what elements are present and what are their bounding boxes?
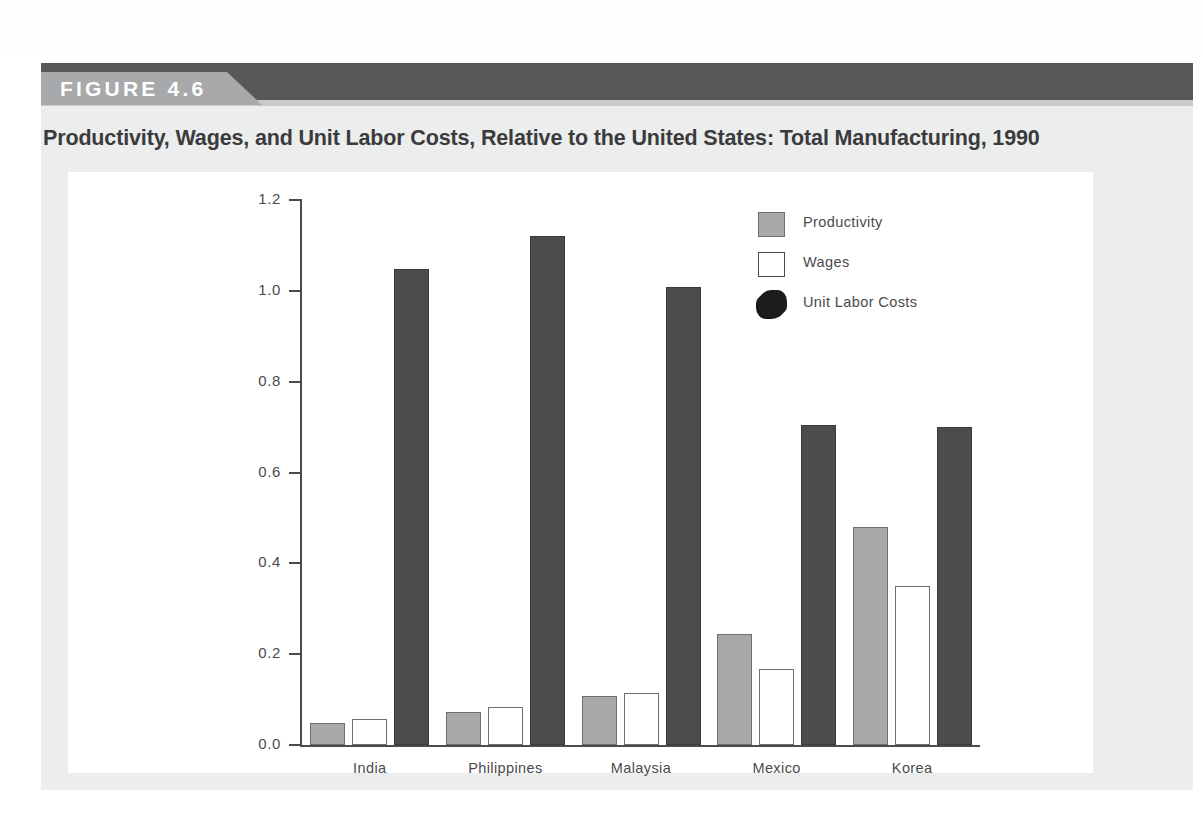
bar-korea-wages bbox=[895, 586, 930, 745]
bar-korea-unit-labor-costs bbox=[937, 427, 972, 745]
bar-philippines-productivity bbox=[446, 712, 481, 745]
x-axis-label-malaysia: Malaysia bbox=[573, 760, 709, 776]
y-axis-tick-label: 0.6 bbox=[223, 463, 281, 480]
figure-number-label: FIGURE 4.6 bbox=[41, 77, 206, 101]
bar-malaysia-productivity bbox=[582, 696, 617, 745]
y-axis-tick bbox=[289, 472, 302, 474]
bar-mexico-wages bbox=[759, 669, 794, 745]
page-top-margin bbox=[0, 0, 1203, 56]
bar-malaysia-wages bbox=[624, 693, 659, 745]
plot-panel: 1.21.00.80.60.40.20.0 IndiaPhilippinesMa… bbox=[68, 172, 1093, 773]
figure-number-tab: FIGURE 4.6 bbox=[41, 72, 262, 105]
bar-mexico-productivity bbox=[717, 634, 752, 745]
legend-swatch-icon bbox=[758, 252, 785, 277]
legend-label: Productivity bbox=[803, 214, 883, 230]
y-axis-tick-label: 0.8 bbox=[223, 372, 281, 389]
x-axis-label-india: India bbox=[302, 760, 438, 776]
y-axis-tick-label: 0.0 bbox=[223, 735, 281, 752]
y-axis-tick bbox=[289, 744, 302, 746]
y-axis-tick bbox=[289, 653, 302, 655]
x-axis-label-philippines: Philippines bbox=[438, 760, 574, 776]
bar-philippines-unit-labor-costs bbox=[530, 236, 565, 745]
bar-india-productivity bbox=[310, 723, 345, 745]
y-axis-tick bbox=[289, 199, 302, 201]
figure-root: FIGURE 4.6 Productivity, Wages, and Unit… bbox=[0, 0, 1203, 834]
legend-swatch-icon bbox=[758, 292, 785, 317]
bar-chart: 1.21.00.80.60.40.20.0 IndiaPhilippinesMa… bbox=[68, 172, 1093, 773]
bar-india-unit-labor-costs bbox=[394, 269, 429, 745]
bar-mexico-unit-labor-costs bbox=[801, 425, 836, 745]
bar-korea-productivity bbox=[853, 527, 888, 745]
x-axis-label-mexico: Mexico bbox=[709, 760, 845, 776]
y-axis-tick-label: 1.2 bbox=[223, 190, 281, 207]
legend-swatch-icon bbox=[758, 212, 785, 237]
y-axis-tick bbox=[289, 562, 302, 564]
figure-title: Productivity, Wages, and Unit Labor Cost… bbox=[43, 126, 1183, 151]
x-axis-label-korea: Korea bbox=[844, 760, 980, 776]
y-axis-tick-label: 0.2 bbox=[223, 644, 281, 661]
legend-label: Wages bbox=[803, 254, 850, 270]
bar-malaysia-unit-labor-costs bbox=[666, 287, 701, 745]
bar-philippines-wages bbox=[488, 707, 523, 745]
y-axis-tick-label: 1.0 bbox=[223, 281, 281, 298]
y-axis-tick bbox=[289, 290, 302, 292]
x-axis-line bbox=[300, 745, 980, 747]
legend-label: Unit Labor Costs bbox=[803, 294, 917, 310]
y-axis-tick bbox=[289, 381, 302, 383]
y-axis-tick-label: 0.4 bbox=[223, 553, 281, 570]
bar-india-wages bbox=[352, 719, 387, 745]
